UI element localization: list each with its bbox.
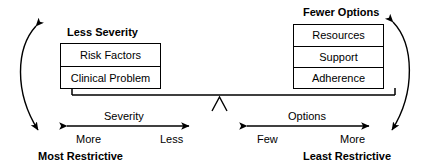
left-curved-double-arrow-icon — [21, 26, 39, 130]
fulcrum-triangle-icon — [212, 97, 227, 111]
top-left-title: Less Severity — [67, 26, 138, 38]
bottom-right-title: Least Restrictive — [303, 150, 391, 162]
balance-beam-icon — [72, 88, 395, 95]
left-factor-box: Risk Factors Clinical Problem — [60, 43, 161, 89]
left-scale-name: Severity — [104, 110, 144, 122]
left-scale-end-label: Less — [160, 133, 183, 145]
bottom-left-title: Most Restrictive — [38, 150, 123, 162]
right-factor-box: Resources Support Adherence — [293, 24, 384, 89]
right-box-row: Resources — [294, 25, 383, 46]
left-scale-start-label: More — [76, 133, 101, 145]
seesaw-balance-diagram: Less Severity Fewer Options Risk Factors… — [0, 0, 429, 168]
right-box-row: Support — [294, 46, 383, 67]
top-right-title: Fewer Options — [303, 6, 379, 18]
right-box-row: Adherence — [294, 67, 383, 88]
right-scale-end-label: More — [340, 133, 365, 145]
right-curved-double-arrow-icon — [392, 22, 409, 130]
left-box-row: Clinical Problem — [61, 66, 160, 88]
left-box-row: Risk Factors — [61, 44, 160, 66]
right-scale-name: Options — [288, 110, 326, 122]
right-scale-start-label: Few — [257, 133, 278, 145]
